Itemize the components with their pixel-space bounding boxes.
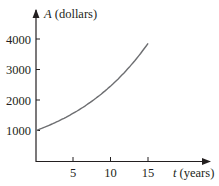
x-tick-label: 10 <box>104 166 117 180</box>
x-tick-label: 15 <box>142 166 155 180</box>
y-tick-labels: 4000 3000 2000 1000 <box>6 33 31 139</box>
y-axis-label: A (dollars) <box>43 7 97 21</box>
y-tick-label: 3000 <box>6 63 31 77</box>
chart-canvas: 4000 3000 2000 1000 5 10 15 A (dollars) … <box>0 0 219 186</box>
y-tick-label: 2000 <box>6 94 31 108</box>
growth-curve <box>36 43 148 130</box>
x-axis-label: t (years) <box>173 166 214 180</box>
y-tick-label: 4000 <box>6 33 31 47</box>
x-ticks <box>73 157 148 162</box>
x-tick-label: 5 <box>70 166 76 180</box>
y-tick-label: 1000 <box>6 124 31 138</box>
x-tick-labels: 5 10 15 <box>70 166 154 180</box>
